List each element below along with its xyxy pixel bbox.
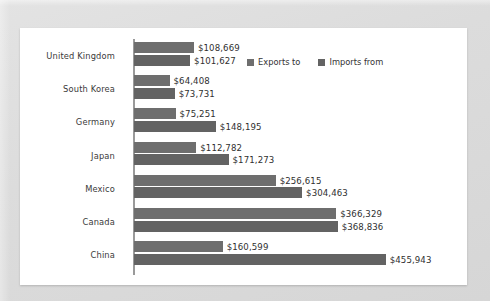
- category-label: Canada: [83, 217, 115, 227]
- chart-category-row: China$160,599$455,943: [20, 241, 467, 265]
- chart-category-row: Germany$75,251$148,195: [20, 108, 467, 132]
- chart-panel: United Kingdom$108,669$101,627South Kore…: [20, 28, 467, 285]
- chart-category-row: Mexico$256,615$304,463: [20, 175, 467, 199]
- chart-legend: Exports toImports from: [247, 57, 383, 67]
- chart-category-row: South Korea$64,408$73,731: [20, 75, 467, 99]
- legend-item-imports[interactable]: Imports from: [318, 57, 383, 67]
- bar-imports: [134, 55, 190, 66]
- legend-label: Exports to: [258, 57, 300, 67]
- bar-value-label: $256,615: [280, 176, 322, 186]
- category-label: South Korea: [63, 84, 115, 94]
- bar-exports: [134, 208, 336, 219]
- bar-imports: [134, 187, 302, 198]
- legend-label: Imports from: [329, 57, 383, 67]
- category-label: United Kingdom: [46, 51, 115, 61]
- bar-value-label: $101,627: [194, 56, 236, 66]
- bar-imports: [134, 254, 386, 265]
- category-label: China: [91, 250, 115, 260]
- bar-value-label: $304,463: [306, 188, 348, 198]
- bar-exports: [134, 75, 170, 86]
- bar-value-label: $148,195: [220, 122, 262, 132]
- bar-value-label: $64,408: [174, 76, 210, 86]
- category-label: Mexico: [85, 184, 115, 194]
- bar-exports: [134, 42, 194, 53]
- bar-value-label: $171,273: [233, 155, 275, 165]
- legend-swatch-icon: [247, 59, 254, 66]
- bar-value-label: $366,329: [340, 209, 382, 219]
- category-label: Germany: [76, 117, 115, 127]
- bar-chart-plot-area: United Kingdom$108,669$101,627South Kore…: [20, 28, 467, 285]
- category-label: Japan: [91, 151, 115, 161]
- bar-imports: [134, 88, 175, 99]
- bar-exports: [134, 108, 176, 119]
- legend-swatch-icon: [318, 59, 325, 66]
- bar-exports: [134, 241, 223, 252]
- screenshot-canvas: United Kingdom$108,669$101,627South Kore…: [0, 0, 490, 301]
- chart-category-row: United Kingdom$108,669$101,627: [20, 42, 467, 66]
- bar-value-label: $75,251: [180, 109, 216, 119]
- bar-value-label: $368,836: [342, 222, 384, 232]
- bar-exports: [134, 142, 196, 153]
- chart-category-row: Japan$112,782$171,273: [20, 142, 467, 166]
- bar-exports: [134, 175, 276, 186]
- bar-value-label: $73,731: [179, 89, 215, 99]
- bar-value-label: $112,782: [200, 143, 242, 153]
- bar-imports: [134, 221, 338, 232]
- bar-imports: [134, 154, 229, 165]
- legend-item-exports[interactable]: Exports to: [247, 57, 300, 67]
- bar-value-label: $455,943: [390, 255, 432, 265]
- bar-imports: [134, 121, 216, 132]
- bar-value-label: $160,599: [227, 242, 269, 252]
- chart-category-row: Canada$366,329$368,836: [20, 208, 467, 232]
- bar-value-label: $108,669: [198, 43, 240, 53]
